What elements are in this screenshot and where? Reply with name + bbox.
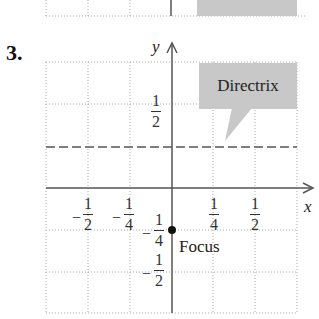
denominator: 2 — [152, 114, 160, 130]
directrix-label: Directrix — [217, 76, 278, 96]
y-tick-sign: − — [142, 265, 151, 283]
denominator: 4 — [125, 217, 133, 233]
x-tick-neg-quarter: 14 — [124, 196, 134, 233]
y-tick-neg-half: 12 — [154, 252, 164, 289]
numerator: 1 — [84, 196, 92, 212]
y-tick-neg-quarter: 14 — [154, 212, 164, 249]
numerator: 1 — [210, 196, 218, 212]
numerator: 1 — [152, 93, 160, 109]
focus-point — [168, 226, 176, 234]
x-tick-neg-half: 12 — [83, 196, 93, 233]
x-axis-label: x — [304, 198, 312, 215]
focus-label: Focus — [179, 238, 220, 255]
directrix-callout: Directrix — [199, 63, 297, 109]
y-axis-label: y — [152, 38, 160, 55]
x-tick-quarter: 14 — [209, 196, 219, 233]
denominator: 2 — [155, 273, 163, 289]
denominator: 4 — [155, 233, 163, 249]
numerator: 1 — [155, 212, 163, 228]
denominator: 2 — [251, 217, 259, 233]
y-tick-sign: − — [142, 225, 151, 243]
x-tick-sign: − — [72, 209, 81, 227]
problem-number: 3. — [6, 40, 23, 66]
numerator: 1 — [251, 196, 259, 212]
y-tick-half: 12 — [151, 93, 161, 130]
numerator: 1 — [155, 252, 163, 268]
denominator: 2 — [84, 217, 92, 233]
x-tick-half: 12 — [250, 196, 260, 233]
numerator: 1 — [125, 196, 133, 212]
x-tick-sign: − — [112, 209, 121, 227]
denominator: 4 — [210, 217, 218, 233]
